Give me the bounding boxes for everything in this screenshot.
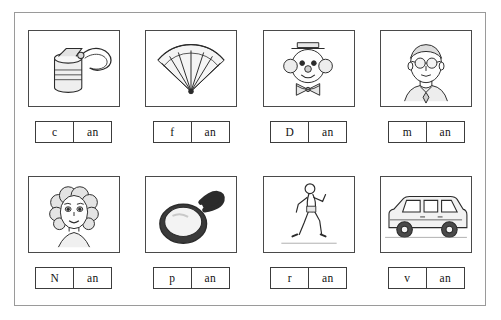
picture-man-face-with-glasses — [380, 30, 472, 107]
onset-letter: f — [154, 122, 192, 142]
rime-letters: an — [427, 268, 464, 288]
rime-letters: an — [192, 122, 229, 142]
card-man: m an — [368, 13, 486, 159]
card-van: v an — [368, 159, 486, 305]
picture-running-person — [263, 176, 355, 253]
card-pan: p an — [133, 159, 251, 305]
worksheet-sheet: c an — [14, 12, 486, 306]
card-dan: D an — [250, 13, 368, 159]
onset-letter: v — [389, 268, 427, 288]
onset-letter: N — [36, 268, 74, 288]
picture-can-opener-with-open-tin-can — [28, 30, 120, 107]
onset-letter: p — [154, 268, 192, 288]
picture-frying-pan — [145, 176, 237, 253]
rime-letters: an — [192, 268, 229, 288]
picture-hand-fan — [145, 30, 237, 107]
picture-girl-face-with-curly-hair — [28, 176, 120, 253]
onset-letter: D — [271, 122, 309, 142]
card-fan: f an — [133, 13, 251, 159]
card-ran: r an — [250, 159, 368, 305]
rime-letters: an — [74, 268, 111, 288]
picture-clown-face — [263, 30, 355, 107]
card-nan: N an — [15, 159, 133, 305]
card-can: c an — [15, 13, 133, 159]
word-boxes-dan: D an — [270, 121, 347, 143]
word-boxes-can: c an — [35, 121, 112, 143]
rime-letters: an — [427, 122, 464, 142]
word-boxes-man: m an — [388, 121, 465, 143]
onset-letter: m — [389, 122, 427, 142]
rime-letters: an — [74, 122, 111, 142]
rime-letters: an — [309, 122, 346, 142]
word-boxes-van: v an — [388, 267, 465, 289]
onset-letter: r — [271, 268, 309, 288]
word-boxes-fan: f an — [153, 121, 230, 143]
rime-letters: an — [309, 268, 346, 288]
picture-van-vehicle — [380, 176, 472, 253]
word-boxes-pan: p an — [153, 267, 230, 289]
word-boxes-nan: N an — [35, 267, 112, 289]
picture-card-grid: c an — [15, 13, 485, 305]
onset-letter: c — [36, 122, 74, 142]
word-boxes-ran: r an — [270, 267, 347, 289]
